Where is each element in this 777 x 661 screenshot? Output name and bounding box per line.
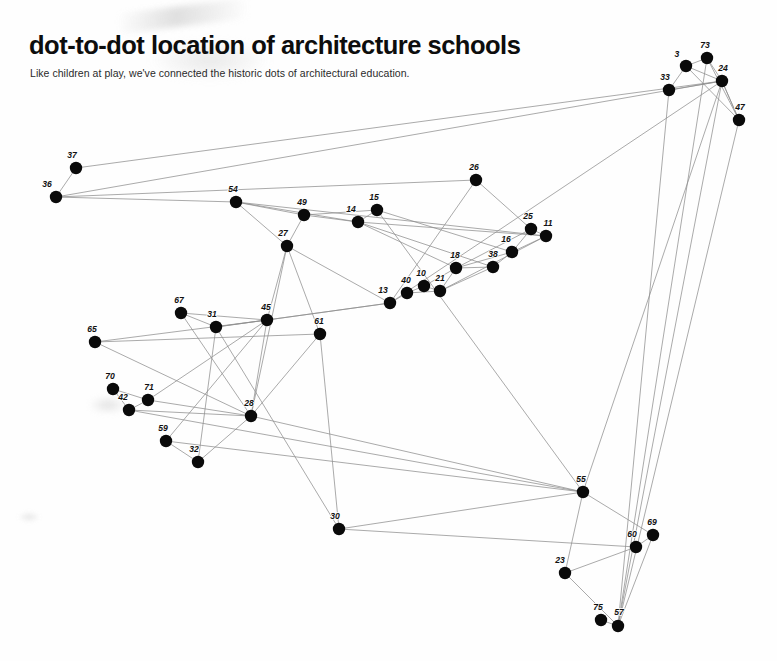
data-point-15[interactable]: 15 [369, 192, 383, 216]
dot-label-24: 24 [717, 63, 728, 73]
edge-36-54 [56, 197, 236, 202]
dot-marker-14[interactable] [352, 216, 364, 228]
dot-marker-25[interactable] [525, 223, 537, 235]
dot-marker-71[interactable] [142, 394, 154, 406]
data-point-73[interactable]: 73 [700, 40, 713, 64]
data-point-26[interactable]: 26 [468, 162, 482, 186]
edge-33-24 [669, 81, 722, 90]
dot-marker-40[interactable] [401, 287, 413, 299]
dot-marker-57[interactable] [612, 620, 624, 632]
edge-14-18 [358, 222, 456, 268]
dot-label-21: 21 [434, 273, 445, 283]
data-point-13[interactable]: 13 [378, 285, 396, 309]
dot-marker-21[interactable] [434, 285, 446, 297]
dot-marker-60[interactable] [630, 541, 642, 553]
dot-marker-10[interactable] [418, 280, 430, 292]
data-point-67[interactable]: 67 [174, 295, 187, 319]
dot-label-60: 60 [627, 529, 637, 539]
dot-marker-45[interactable] [261, 314, 273, 326]
edge-27-13 [287, 246, 390, 303]
data-point-54[interactable]: 54 [228, 184, 242, 208]
dot-marker-26[interactable] [470, 174, 482, 186]
dot-marker-37[interactable] [70, 162, 82, 174]
dot-marker-54[interactable] [230, 196, 242, 208]
data-point-69[interactable]: 69 [647, 517, 659, 541]
dot-label-45: 45 [260, 302, 271, 312]
dot-label-18: 18 [450, 250, 460, 260]
dot-marker-69[interactable] [647, 529, 659, 541]
dot-label-75: 75 [593, 602, 603, 612]
dot-marker-18[interactable] [450, 262, 462, 274]
dot-marker-28[interactable] [245, 410, 257, 422]
dot-marker-36[interactable] [50, 191, 62, 203]
data-point-23[interactable]: 23 [554, 555, 571, 579]
data-point-32[interactable]: 32 [189, 444, 204, 468]
edge-55-23 [565, 492, 583, 573]
data-point-65[interactable]: 65 [87, 324, 101, 348]
edge-32-28 [198, 416, 251, 462]
edge-16-18 [456, 252, 512, 268]
dot-marker-31[interactable] [210, 321, 222, 333]
data-point-70[interactable]: 70 [105, 371, 119, 395]
dot-label-40: 40 [400, 275, 411, 285]
data-point-36[interactable]: 36 [42, 179, 62, 203]
dot-marker-32[interactable] [192, 456, 204, 468]
data-point-75[interactable]: 75 [593, 602, 607, 626]
data-point-55[interactable]: 55 [576, 474, 589, 498]
dot-marker-55[interactable] [577, 486, 589, 498]
edge-33-57 [618, 90, 669, 626]
edge-15-16 [377, 210, 512, 252]
dot-label-42: 42 [117, 392, 128, 402]
dot-label-3: 3 [675, 49, 680, 59]
data-point-30[interactable]: 30 [330, 511, 345, 535]
edge-49-14 [304, 215, 358, 222]
dot-label-27: 27 [277, 228, 289, 238]
dot-marker-67[interactable] [175, 307, 187, 319]
dot-marker-38[interactable] [487, 261, 499, 273]
edge-26-25 [476, 180, 531, 229]
data-point-71[interactable]: 71 [142, 382, 154, 406]
dot-marker-27[interactable] [281, 240, 293, 252]
data-point-31[interactable]: 31 [207, 309, 222, 333]
edge-59-55 [166, 441, 583, 492]
dot-marker-65[interactable] [89, 336, 101, 348]
dot-marker-3[interactable] [680, 60, 692, 72]
dot-label-23: 23 [554, 555, 565, 565]
data-point-47[interactable]: 47 [733, 102, 746, 126]
dot-marker-24[interactable] [716, 75, 728, 87]
edge-14-11 [358, 222, 546, 236]
dot-label-47: 47 [734, 102, 746, 112]
data-point-40[interactable]: 40 [400, 275, 413, 299]
dot-label-26: 26 [468, 162, 479, 172]
dot-marker-73[interactable] [701, 52, 713, 64]
dot-marker-33[interactable] [663, 84, 675, 96]
edge-67-45 [181, 313, 267, 320]
poster-page: dot-to-dot location of architecture scho… [0, 0, 777, 661]
dot-marker-23[interactable] [559, 567, 571, 579]
dot-marker-16[interactable] [506, 246, 518, 258]
edge-31-32 [198, 327, 216, 462]
dot-marker-59[interactable] [160, 435, 172, 447]
edge-30-60 [339, 529, 636, 547]
dot-label-30: 30 [330, 511, 340, 521]
dot-marker-42[interactable] [123, 404, 135, 416]
dot-label-13: 13 [378, 285, 388, 295]
data-point-28[interactable]: 28 [243, 398, 257, 422]
data-point-61[interactable]: 61 [314, 316, 326, 340]
dot-marker-47[interactable] [733, 114, 745, 126]
dot-label-28: 28 [243, 398, 254, 408]
dot-marker-15[interactable] [371, 204, 383, 216]
dot-marker-30[interactable] [333, 523, 345, 535]
dot-marker-75[interactable] [595, 614, 607, 626]
dot-marker-13[interactable] [384, 297, 396, 309]
edge-61-30 [320, 334, 339, 529]
data-point-11[interactable]: 11 [540, 218, 553, 242]
dot-marker-11[interactable] [540, 230, 552, 242]
data-point-42[interactable]: 42 [117, 392, 135, 416]
data-point-24[interactable]: 24 [716, 63, 728, 87]
data-point-59[interactable]: 59 [158, 423, 172, 447]
dot-marker-49[interactable] [298, 209, 310, 221]
data-point-3[interactable]: 3 [675, 49, 693, 72]
dot-marker-61[interactable] [314, 328, 326, 340]
data-point-37[interactable]: 37 [67, 150, 82, 174]
